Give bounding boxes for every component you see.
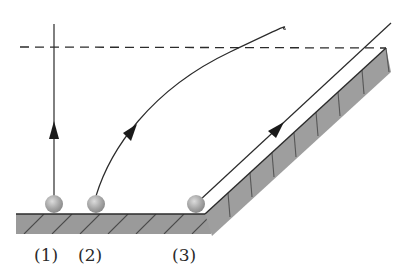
path-1-arrow-icon: [49, 121, 59, 139]
ball-1: [45, 195, 63, 213]
reference-height-line: [20, 47, 386, 48]
label-1: (1): [34, 245, 58, 265]
ball-3: [187, 195, 205, 213]
label-2: (2): [78, 245, 102, 265]
path-3-arrow-icon: [268, 122, 284, 138]
label-3: (3): [172, 245, 196, 265]
path-3-incline: [200, 23, 391, 200]
incline-ramp: [205, 48, 391, 236]
ball-2: [87, 195, 105, 213]
ground-surface: [16, 214, 212, 234]
physics-diagram: [0, 0, 411, 280]
